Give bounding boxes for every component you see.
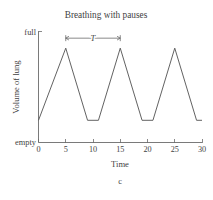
x-tick-label-15: 15: [116, 145, 124, 154]
lung-volume-line: [39, 48, 203, 120]
x-tick-label-25: 25: [171, 145, 179, 154]
x-tick-label-10: 10: [89, 145, 97, 154]
figure-caption: c: [118, 177, 122, 186]
x-tick-label-0: 0: [36, 145, 40, 154]
chart-title: Breathing with pauses: [65, 10, 148, 20]
y-axis-title: Volume of lung: [11, 60, 21, 114]
x-tick-label-5: 5: [64, 145, 68, 154]
x-tick-label-30: 30: [198, 145, 206, 154]
x-axis-ticks: [39, 139, 203, 143]
breathing-chart: Breathing with pauses 0 5 10 15 20 25 30…: [0, 0, 213, 200]
period-annotation: T: [66, 33, 121, 43]
figure-container: Breathing with pauses 0 5 10 15 20 25 30…: [0, 0, 213, 200]
x-axis-title: Time: [111, 159, 129, 169]
y-axis-top-label: full: [24, 28, 36, 37]
y-axis-bottom-label: empty: [15, 138, 37, 147]
x-tick-label-20: 20: [143, 145, 151, 154]
